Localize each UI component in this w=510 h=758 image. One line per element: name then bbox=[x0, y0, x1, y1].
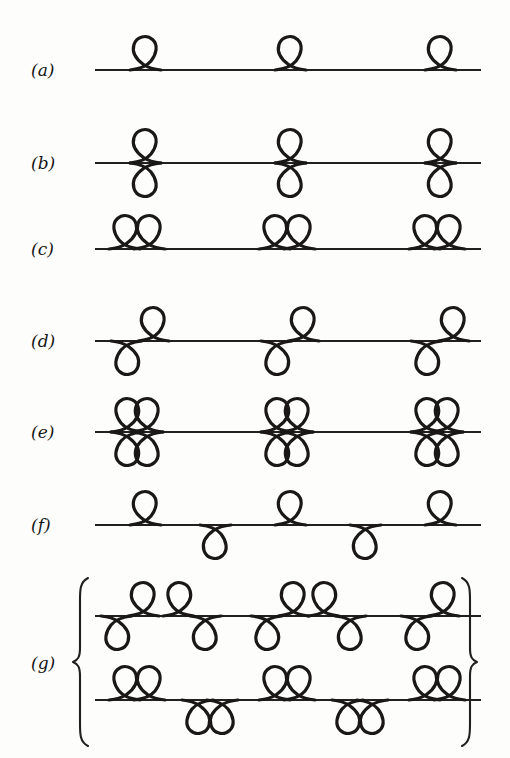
singular-points-figure: (a) (b) (c) (d) bbox=[0, 0, 510, 758]
row-b-label: (b) bbox=[31, 153, 55, 173]
row-e-label: (e) bbox=[31, 422, 54, 442]
row-f-label: (f) bbox=[31, 515, 51, 535]
page-background bbox=[0, 0, 510, 758]
row-d-label: (d) bbox=[31, 331, 55, 351]
row-c-label: (c) bbox=[31, 239, 54, 259]
row-g-label: (g) bbox=[31, 653, 55, 673]
row-a-label: (a) bbox=[31, 60, 54, 80]
